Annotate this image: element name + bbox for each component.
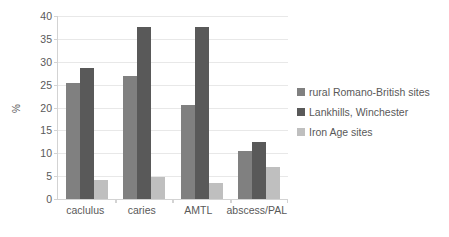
y-axis-title-text: % (11, 104, 22, 113)
legend-label: Lankhills, Winchester (309, 106, 408, 118)
y-tick-label: 20 (24, 103, 52, 113)
bar-group (58, 16, 116, 199)
x-tick-mark (287, 199, 288, 203)
y-tick-label: 0 (24, 194, 52, 204)
x-category-label: caries (114, 204, 171, 224)
chart-legend: rural Romano-British sitesLankhills, Win… (297, 83, 447, 143)
y-tick-label: 35 (24, 34, 52, 44)
x-tick-mark (231, 199, 232, 203)
x-tick-mark (116, 199, 117, 203)
bar-group (173, 16, 231, 199)
y-tick-mark (54, 199, 58, 200)
x-category-label: caclulus (57, 204, 114, 224)
bar-group (231, 16, 289, 199)
y-tick-label: 25 (24, 80, 52, 90)
y-tick-label: 40 (24, 11, 52, 21)
x-axis-category-labels: cacluluscariesAMTLabscess/PAL (57, 204, 287, 224)
y-axis-tick-labels: 0510152025303540 (24, 16, 52, 199)
legend-swatch-icon (297, 108, 305, 116)
y-tick-label: 5 (24, 171, 52, 181)
bar[interactable] (195, 27, 209, 199)
legend-label: rural Romano-British sites (309, 86, 430, 98)
y-tick-label: 10 (24, 148, 52, 158)
bar-group (116, 16, 174, 199)
legend-swatch-icon (297, 88, 305, 96)
y-tick-label: 15 (24, 125, 52, 135)
bar[interactable] (66, 83, 80, 199)
bar[interactable] (151, 177, 165, 199)
bar[interactable] (137, 27, 151, 199)
plot-area (57, 16, 288, 200)
bar[interactable] (80, 68, 94, 199)
y-tick-label: 30 (24, 57, 52, 67)
x-category-label: abscess/PAL (227, 204, 288, 224)
x-category-label: AMTL (170, 204, 227, 224)
legend-item[interactable]: Lankhills, Winchester (297, 103, 447, 121)
bar[interactable] (94, 180, 108, 199)
bar[interactable] (238, 151, 252, 199)
bar[interactable] (181, 105, 195, 199)
legend-label: Iron Age sites (309, 126, 373, 138)
bar[interactable] (266, 167, 280, 199)
legend-item[interactable]: Iron Age sites (297, 123, 447, 141)
bar[interactable] (209, 183, 223, 199)
bar-chart: % 0510152025303540 cacluluscariesAMTLabs… (0, 0, 449, 237)
bar[interactable] (252, 142, 266, 199)
legend-item[interactable]: rural Romano-British sites (297, 83, 447, 101)
legend-swatch-icon (297, 128, 305, 136)
x-tick-mark (173, 199, 174, 203)
bar-groups (58, 16, 288, 199)
bar[interactable] (123, 76, 137, 199)
